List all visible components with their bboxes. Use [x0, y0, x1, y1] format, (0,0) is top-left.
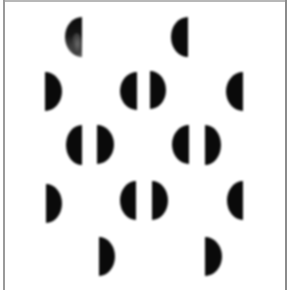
half-ellipse-shape-7: [66, 125, 82, 165]
figure-canvas: [0, 0, 287, 290]
half-ellipse-shape-1: [65, 17, 82, 57]
half-ellipse-shape-4: [120, 72, 137, 110]
half-ellipse-shape-12: [120, 181, 136, 220]
half-ellipse-shape-14: [227, 181, 243, 220]
half-ellipse-shape-9: [172, 125, 189, 164]
half-ellipse-shape-11: [46, 184, 62, 223]
half-ellipse-shape-3: [45, 72, 62, 111]
half-ellipse-shape-15: [99, 237, 115, 276]
half-ellipse-shape-5: [150, 71, 166, 109]
half-ellipse-shape-6: [226, 72, 243, 111]
half-ellipse-shape-8: [97, 125, 114, 164]
half-ellipse-shape-2: [171, 17, 188, 57]
half-ellipse-shape-13: [152, 181, 168, 220]
half-ellipse-shape-10: [205, 125, 221, 165]
half-ellipse-shape-16: [205, 237, 222, 276]
